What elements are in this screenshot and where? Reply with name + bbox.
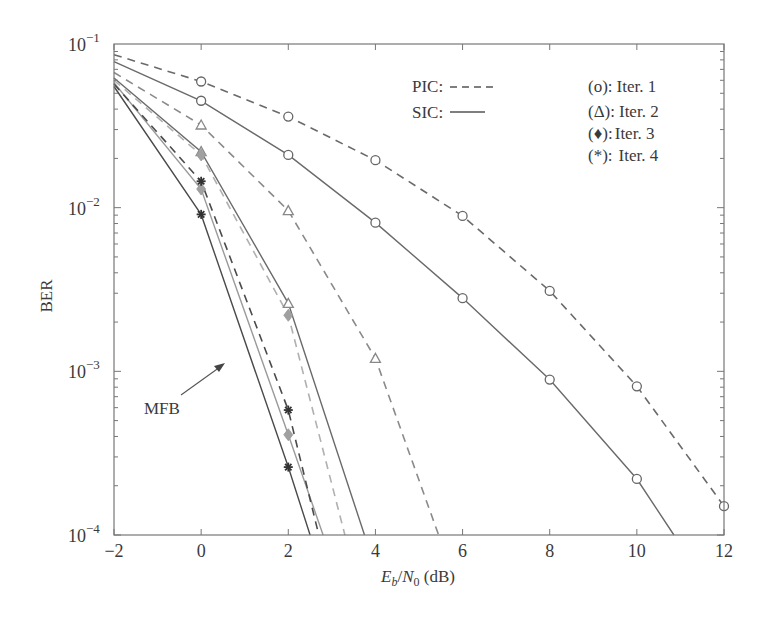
circle-marker-icon bbox=[284, 150, 293, 159]
svg-text:(o):Iter. 1: (o):Iter. 1 bbox=[588, 77, 656, 96]
svg-text:(*):Iter. 4: (*):Iter. 4 bbox=[588, 146, 659, 165]
circle-marker-icon bbox=[197, 77, 206, 86]
ber-chart: −2024681012 10−110−210−310−4 Eb/N0 (dB) … bbox=[0, 0, 771, 631]
series-line bbox=[114, 80, 345, 535]
circle-marker-icon bbox=[632, 474, 641, 483]
y-tick-labels: 10−110−210−310−4 bbox=[68, 30, 100, 546]
x-tick-label: 2 bbox=[284, 541, 293, 561]
triangle-marker-icon bbox=[283, 298, 293, 307]
x-axis-label: Eb/N0 (dB) bbox=[380, 567, 455, 589]
svg-text:(Δ):Iter. 2: (Δ):Iter. 2 bbox=[588, 102, 659, 121]
circle-marker-icon bbox=[371, 156, 380, 165]
star-marker-icon bbox=[197, 177, 206, 186]
x-tick-label: 12 bbox=[715, 541, 733, 561]
x-tick-label: 0 bbox=[197, 541, 206, 561]
y-tick-label: 10−3 bbox=[68, 357, 100, 382]
x-tick-label: 4 bbox=[371, 541, 380, 561]
x-tick-label: 6 bbox=[458, 541, 467, 561]
circle-marker-icon bbox=[197, 96, 206, 105]
diamond-marker-icon bbox=[284, 429, 293, 441]
x-tick-labels: −2024681012 bbox=[104, 541, 733, 561]
circle-marker-icon bbox=[632, 382, 641, 391]
star-marker-icon bbox=[197, 210, 206, 219]
legend-sic-label: SIC: bbox=[412, 103, 443, 122]
legend-pic: PIC: bbox=[412, 77, 495, 96]
legend-iter-4: (*):Iter. 4 bbox=[588, 146, 659, 165]
circle-marker-icon bbox=[284, 112, 293, 121]
star-marker-icon bbox=[284, 463, 293, 472]
legend-sic: SIC: bbox=[412, 103, 485, 122]
y-tick-label: 10−1 bbox=[68, 30, 100, 55]
arrow-icon bbox=[181, 367, 220, 395]
triangle-marker-icon bbox=[196, 120, 206, 129]
mfb-label: MFB bbox=[144, 399, 180, 418]
circle-marker-icon bbox=[458, 294, 467, 303]
series-line bbox=[114, 87, 310, 536]
y-tick-label: 10−2 bbox=[68, 194, 100, 219]
legend-iter-1: (o):Iter. 1 bbox=[588, 77, 656, 96]
x-tick-label: −2 bbox=[104, 541, 123, 561]
y-tick-label: 10−4 bbox=[68, 521, 100, 546]
circle-marker-icon bbox=[371, 218, 380, 227]
circle-marker-icon bbox=[545, 286, 554, 295]
triangle-marker-icon bbox=[370, 353, 380, 362]
mfb-annotation: MFB bbox=[144, 363, 225, 418]
star-marker-icon bbox=[284, 406, 293, 415]
x-tick-label: 8 bbox=[545, 541, 554, 561]
y-axis-label: BER bbox=[37, 279, 56, 313]
x-tick-label: 10 bbox=[628, 541, 646, 561]
legend-iter-3: (♦):Iter. 3 bbox=[588, 124, 654, 143]
circle-marker-icon bbox=[458, 211, 467, 220]
legend: PIC: SIC: (o):Iter. 1 (Δ):Iter. 2 (♦):It… bbox=[412, 77, 659, 165]
legend-pic-label: PIC: bbox=[412, 77, 443, 96]
circle-marker-icon bbox=[545, 375, 554, 384]
legend-iter-2: (Δ):Iter. 2 bbox=[588, 102, 659, 121]
svg-text:(♦):Iter. 3: (♦):Iter. 3 bbox=[588, 124, 654, 143]
triangle-marker-icon bbox=[283, 206, 293, 215]
series-line bbox=[114, 55, 724, 507]
